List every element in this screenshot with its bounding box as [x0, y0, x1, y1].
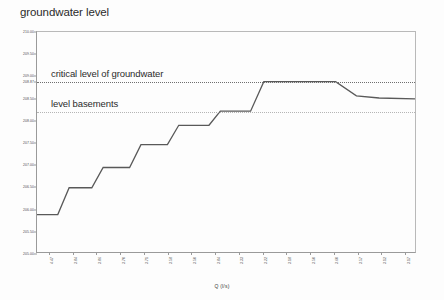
x-axis-tick-mark [191, 252, 192, 255]
x-axis-tick-mark [310, 252, 311, 255]
x-axis-tick-label: 3.17 [407, 257, 411, 264]
x-axis-tick-label: 3.71 [145, 257, 149, 264]
x-axis-tick-label: 3.58 [169, 257, 173, 264]
x-axis-tick-label: 3.84 [74, 257, 78, 264]
x-axis-tick-mark [120, 252, 121, 255]
x-axis-tick-label: 3.57 [359, 257, 363, 264]
y-axis-tick-label: 207.00 [23, 163, 34, 167]
reference-line [37, 82, 415, 83]
y-axis-tick-mark [34, 76, 37, 77]
reference-line-label: critical level of groundwater [51, 68, 163, 79]
x-axis-tick-label: 3.84 [217, 257, 221, 264]
x-axis-tick-mark [215, 252, 216, 255]
x-axis-tick-label: 3.86 [98, 257, 102, 264]
y-axis-tick-label: 207.50 [23, 141, 34, 145]
y-axis-tick-mark [34, 231, 37, 232]
y-axis-tick-mark [34, 143, 37, 144]
x-axis-tick-mark [334, 252, 335, 255]
x-axis-tick-mark [144, 252, 145, 255]
y-axis-tick-label: 206.00 [23, 208, 34, 212]
y-axis-tick-label: 209.50 [23, 52, 34, 56]
y-axis-tick-mark [34, 254, 37, 255]
x-axis-tick-mark [286, 252, 287, 255]
x-axis-tick-mark [73, 252, 74, 255]
y-axis-tick-mark [34, 187, 37, 188]
y-axis-tick-label: 208.87 [23, 80, 34, 84]
x-axis-tick-mark [381, 252, 382, 255]
y-axis-tick-label: 208.00 [23, 119, 34, 123]
y-axis-tick-mark [34, 32, 37, 33]
x-axis-tick-label: 3.33 [240, 257, 244, 264]
x-axis-tick-mark [239, 252, 240, 255]
y-axis-tick-mark [34, 120, 37, 121]
y-axis-tick-mark [34, 98, 37, 99]
reference-line-label: level basements [51, 98, 118, 109]
x-axis-tick-label: 4.47 [50, 257, 54, 264]
data-series-line [37, 32, 415, 252]
x-axis-tick-label: 3.22 [264, 257, 268, 264]
x-axis-tick-mark [263, 252, 264, 255]
y-axis-tick-label: 206.50 [23, 185, 34, 189]
x-axis-tick-mark [358, 252, 359, 255]
plot-area: 210.00209.50209.00208.87208.50208.00207.… [36, 31, 416, 253]
y-axis-tick-label: 209.00 [23, 74, 34, 78]
reference-line [37, 112, 415, 113]
groundwater-level-chart: groundwater level 210.00209.50209.00208.… [0, 0, 444, 300]
y-axis-tick-label: 208.50 [23, 97, 34, 101]
y-axis-tick-label: 205.50 [23, 230, 34, 234]
x-axis-tick-label: 3.50 [193, 257, 197, 264]
y-axis-tick-mark [34, 54, 37, 55]
x-axis-tick-label: 3.60 [335, 257, 339, 264]
x-axis-tick-mark [405, 252, 406, 255]
chart-title: groundwater level [20, 6, 109, 18]
x-axis-tick-label: 3.12 [383, 257, 387, 264]
y-axis-tick-label: 205.00 [23, 252, 34, 256]
x-axis-tick-label: 3.70 [122, 257, 126, 264]
x-axis-title: Q (l/s) [0, 283, 444, 289]
x-axis-tick-mark [96, 252, 97, 255]
x-axis-tick-label: 3.18 [288, 257, 292, 264]
y-axis-tick-label: 210.00 [23, 30, 34, 34]
x-axis-tick-mark [49, 252, 50, 255]
y-axis-tick-mark [34, 209, 37, 210]
y-axis-tick-mark [34, 165, 37, 166]
x-axis-tick-mark [168, 252, 169, 255]
x-axis-tick-label: 3.50 [312, 257, 316, 264]
